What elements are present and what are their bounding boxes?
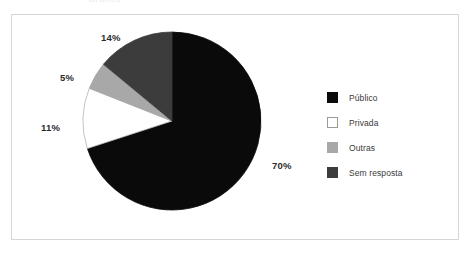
legend-label-sem-resposta: Sem resposta — [349, 168, 403, 178]
caption-artifact: Gráfico — [0, 0, 471, 10]
chart-legend: Público Privada Outras Sem resposta — [327, 85, 452, 185]
chart-frame: 14% 5% 11% 70% Público Privada Outras Se… — [11, 14, 459, 240]
data-label-privada: 11% — [41, 122, 60, 133]
pie-chart-svg — [82, 31, 262, 211]
legend-swatch-outras — [327, 142, 338, 153]
legend-item-sem-resposta[interactable]: Sem resposta — [327, 160, 452, 185]
data-label-publico: 70% — [272, 160, 292, 171]
pie-chart — [82, 31, 262, 211]
legend-swatch-privada — [327, 117, 338, 128]
legend-item-publico[interactable]: Público — [327, 85, 452, 110]
data-label-sem-resposta: 14% — [101, 32, 121, 43]
caption-artifact-text: Gráfico — [88, 0, 121, 4]
legend-swatch-publico — [327, 92, 338, 103]
legend-item-privada[interactable]: Privada — [327, 110, 452, 135]
legend-swatch-sem-resposta — [327, 167, 338, 178]
legend-label-publico: Público — [349, 93, 378, 103]
data-label-outras: 5% — [60, 72, 74, 83]
legend-item-outras[interactable]: Outras — [327, 135, 452, 160]
legend-label-outras: Outras — [349, 143, 375, 153]
legend-label-privada: Privada — [349, 118, 379, 128]
pie-slices — [83, 32, 261, 210]
